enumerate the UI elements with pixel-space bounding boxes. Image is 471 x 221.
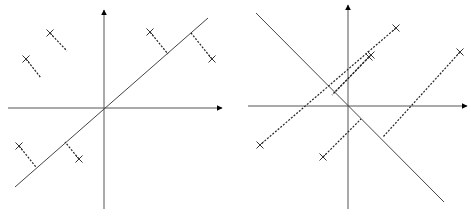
data-point-marker bbox=[16, 143, 23, 150]
projection-residual bbox=[260, 28, 396, 145]
projection-residual bbox=[383, 52, 460, 137]
orthogonal-axis-line bbox=[256, 13, 444, 202]
data-point-marker bbox=[147, 29, 154, 36]
data-point-marker bbox=[76, 156, 83, 163]
diagram-canvas bbox=[0, 0, 471, 221]
data-point-marker bbox=[257, 142, 264, 149]
left-panel bbox=[8, 10, 222, 209]
data-point-marker bbox=[457, 49, 464, 56]
principal-axis-line bbox=[15, 18, 208, 187]
data-point-marker bbox=[23, 56, 30, 63]
projection-residual bbox=[191, 33, 212, 59]
data-point-marker bbox=[47, 30, 54, 37]
data-point-marker bbox=[366, 54, 373, 61]
right-panel bbox=[248, 5, 467, 209]
projection-residual bbox=[323, 119, 361, 157]
data-point-marker bbox=[209, 56, 216, 63]
data-point-marker bbox=[320, 154, 327, 161]
data-point-marker bbox=[393, 25, 400, 32]
